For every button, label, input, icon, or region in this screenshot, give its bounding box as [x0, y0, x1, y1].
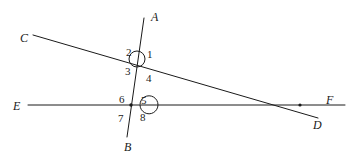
- angle-label-1: 1: [147, 49, 153, 60]
- figure-canvas: [0, 0, 357, 151]
- geometry-figure: A B C D E F 1 2 3 4 5 6 7 8: [0, 0, 357, 151]
- point-label-c: C: [20, 32, 28, 44]
- angle-label-8: 8: [140, 112, 146, 123]
- angle-label-2: 2: [126, 47, 132, 58]
- intersection-dot-cd-ef: [298, 103, 301, 106]
- point-label-d: D: [313, 119, 322, 131]
- angle-label-5: 5: [141, 95, 147, 106]
- line-cd: [33, 35, 318, 118]
- point-label-f: F: [326, 94, 333, 106]
- point-label-b: B: [124, 141, 131, 151]
- point-label-a: A: [151, 11, 158, 23]
- angle-label-3: 3: [125, 66, 131, 77]
- angle-label-7: 7: [118, 113, 124, 124]
- point-label-e: E: [13, 100, 20, 112]
- angle-label-4: 4: [146, 73, 152, 84]
- angle-label-6: 6: [119, 94, 125, 105]
- intersection-dot-ab-ef: [129, 103, 132, 106]
